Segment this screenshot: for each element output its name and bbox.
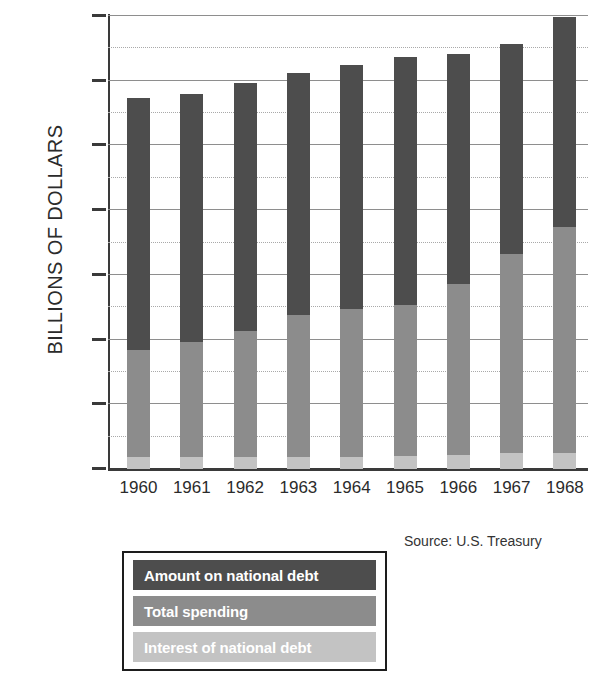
bar-group xyxy=(553,17,576,469)
y-axis-title: BILLIONS OF DOLLARS xyxy=(44,80,67,400)
y-tick-mark xyxy=(92,14,106,17)
plot-area: 050100150200250300350 196019611962196319… xyxy=(108,16,588,469)
bar-segment-interest-of-national-debt xyxy=(500,453,523,469)
bar-segment-total-spending xyxy=(553,227,576,454)
bar-segment-total-spending xyxy=(127,350,150,457)
y-tick-mark xyxy=(92,402,106,405)
legend-label: Amount on national debt xyxy=(144,567,318,584)
bar-group xyxy=(447,54,470,469)
bar-segment-total-spending xyxy=(340,309,363,458)
y-tick-mark xyxy=(92,208,106,211)
gridline-major xyxy=(108,15,588,16)
x-tick-label: 1964 xyxy=(322,478,382,498)
bar-group xyxy=(340,65,363,469)
bar-segment-amount-on-national-debt xyxy=(234,83,257,330)
bar-group xyxy=(180,94,203,469)
source-note: Source: U.S. Treasury xyxy=(404,533,542,549)
bar-segment-total-spending xyxy=(447,284,470,455)
chart-figure: BILLIONS OF DOLLARS 05010015020025030035… xyxy=(0,0,607,698)
legend-item-interest-of-national-debt: Interest of national debt xyxy=(133,632,376,662)
bar-segment-interest-of-national-debt xyxy=(394,456,417,469)
bar-segment-total-spending xyxy=(234,331,257,458)
x-tick-label: 1960 xyxy=(109,478,169,498)
legend-label: Total spending xyxy=(144,603,248,620)
bar-segment-interest-of-national-debt xyxy=(234,457,257,469)
legend-item-amount-on-national-debt: Amount on national debt xyxy=(133,560,376,590)
bar-group xyxy=(127,98,150,469)
bar-segment-interest-of-national-debt xyxy=(127,457,150,469)
bar-group xyxy=(394,57,417,469)
bar-group xyxy=(500,44,523,469)
x-tick-label: 1961 xyxy=(162,478,222,498)
y-tick-mark xyxy=(92,143,106,146)
bar-segment-amount-on-national-debt xyxy=(553,17,576,227)
x-tick-label: 1967 xyxy=(482,478,542,498)
bar-segment-amount-on-national-debt xyxy=(340,65,363,308)
bar-group xyxy=(287,73,310,469)
legend-label: Interest of national debt xyxy=(144,639,312,656)
bar-segment-amount-on-national-debt xyxy=(180,94,203,343)
bar-segment-total-spending xyxy=(287,315,310,457)
x-tick-label: 1962 xyxy=(215,478,275,498)
bar-segment-interest-of-national-debt xyxy=(180,457,203,469)
bar-segment-interest-of-national-debt xyxy=(447,455,470,469)
x-tick-label: 1963 xyxy=(268,478,328,498)
y-tick-mark xyxy=(92,467,106,470)
bar-segment-amount-on-national-debt xyxy=(394,57,417,304)
bar-segment-amount-on-national-debt xyxy=(500,44,523,254)
bar-segment-interest-of-national-debt xyxy=(287,457,310,469)
chart-legend: Amount on national debt Total spending I… xyxy=(122,551,387,671)
x-tick-label: 1968 xyxy=(535,478,595,498)
bar-segment-amount-on-national-debt xyxy=(127,98,150,350)
bar-group xyxy=(234,83,257,469)
bar-segment-interest-of-national-debt xyxy=(553,453,576,469)
y-tick-mark xyxy=(92,338,106,341)
legend-item-total-spending: Total spending xyxy=(133,596,376,626)
bar-segment-interest-of-national-debt xyxy=(340,457,363,469)
bar-segment-total-spending xyxy=(180,342,203,457)
bar-segment-total-spending xyxy=(394,305,417,456)
bar-segment-total-spending xyxy=(500,254,523,453)
x-tick-label: 1965 xyxy=(375,478,435,498)
x-tick-label: 1966 xyxy=(428,478,488,498)
bar-segment-amount-on-national-debt xyxy=(447,54,470,284)
bar-segment-amount-on-national-debt xyxy=(287,73,310,315)
y-tick-mark xyxy=(92,79,106,82)
y-tick-mark xyxy=(92,273,106,276)
